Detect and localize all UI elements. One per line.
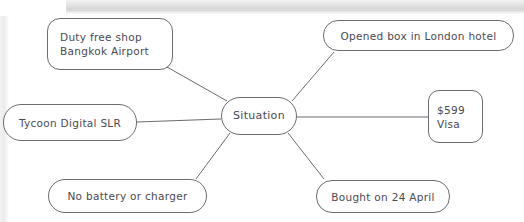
connector-center-bought — [288, 133, 324, 179]
node-price-payment[interactable]: $599 Visa — [428, 90, 483, 143]
node-label-line-2: Visa — [437, 117, 460, 131]
node-label-line-1: Duty free shop — [60, 30, 142, 44]
node-duty-free-shop[interactable]: Duty free shop Bangkok Airport — [47, 18, 173, 70]
node-center-label: Situation — [233, 109, 285, 123]
node-label-line-1: No battery or charger — [67, 189, 187, 203]
node-center-situation[interactable]: Situation — [221, 97, 297, 135]
node-no-battery-or-charger[interactable]: No battery or charger — [48, 179, 207, 213]
node-bought-on-date[interactable]: Bought on 24 April — [316, 180, 450, 213]
mind-map-canvas: Situation Duty free shop Bangkok Airport… — [0, 0, 524, 222]
connector-center-dutyfree — [167, 67, 227, 101]
connector-center-battery — [196, 133, 230, 179]
node-label-line-1: Bought on 24 April — [331, 190, 435, 204]
node-tycoon-digital-slr[interactable]: Tycoon Digital SLR — [3, 104, 137, 141]
connector-center-tycoon — [137, 119, 221, 122]
node-label-line-2: Bangkok Airport — [60, 44, 149, 58]
node-label-line-1: Opened box in London hotel — [341, 29, 497, 43]
node-label-line-1: Tycoon Digital SLR — [19, 116, 121, 130]
node-label-line-1: $599 — [437, 103, 465, 117]
connector-center-openedbox — [292, 52, 334, 101]
node-opened-box[interactable]: Opened box in London hotel — [323, 20, 514, 51]
